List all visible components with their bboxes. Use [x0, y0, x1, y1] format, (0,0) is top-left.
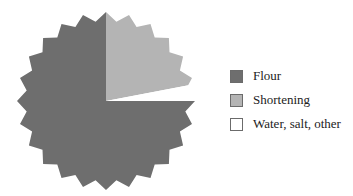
- legend-item-shortening: Shortening: [230, 88, 341, 112]
- starburst-pie-chart: [0, 0, 215, 196]
- legend-item-flour: Flour: [230, 64, 341, 88]
- legend-swatch-flour: [230, 70, 243, 83]
- legend-swatch-water-salt-other: [230, 118, 243, 131]
- legend-item-water-salt-other: Water, salt, other: [230, 112, 341, 136]
- legend-label: Water, salt, other: [253, 116, 341, 132]
- pie-slice-shortening: [106, 0, 215, 101]
- legend-label: Shortening: [253, 92, 310, 108]
- legend: Flour Shortening Water, salt, other: [230, 64, 341, 136]
- legend-swatch-shortening: [230, 94, 243, 107]
- legend-label: Flour: [253, 68, 281, 84]
